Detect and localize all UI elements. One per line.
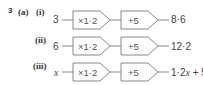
function-machine-diagram: ×1·2 +5 ×1·2 +5 ×1·2 +5 — [0, 0, 203, 85]
row-3-op-1: ×1·2 — [78, 67, 97, 78]
row-3-op-2: +5 — [128, 67, 139, 78]
row-2-op-1: ×1·2 — [78, 41, 97, 52]
row-2-add-box — [121, 37, 158, 55]
row-1-op-2: +5 — [128, 15, 139, 26]
row-1-op-1: ×1·2 — [78, 15, 97, 26]
row-2-op-2: +5 — [128, 41, 139, 52]
row-3-add-box — [121, 63, 158, 81]
row-1-add-box — [121, 11, 158, 29]
